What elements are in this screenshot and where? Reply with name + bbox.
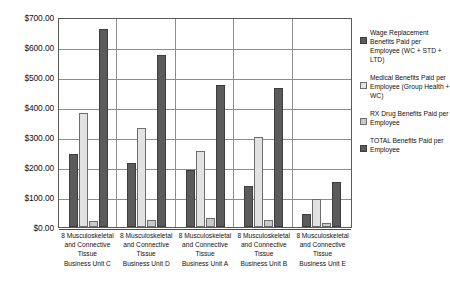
x-category-line: Business Unit B [235,259,292,268]
bar[interactable] [264,220,273,228]
y-tick-label: $300.00 [0,134,54,142]
bar[interactable] [186,170,195,227]
bar[interactable] [322,223,331,227]
x-category-line: Tissue [59,249,116,258]
y-axis: $0.00$100.00$200.00$300.00$400.00$500.00… [0,18,54,228]
y-tick-label: $200.00 [0,164,54,172]
x-category-label: 8 Musculoskeletaland ConnectiveTissueBus… [176,231,235,287]
legend-item[interactable]: Wage Replacement Benefits Paid per Emplo… [360,28,450,64]
bar-group [117,19,175,227]
bar[interactable] [302,214,311,228]
legend-item-label: TOTAL Benefits Paid per Employee [370,136,450,154]
bar[interactable] [157,55,166,227]
x-category-line: Tissue [118,249,175,258]
y-tick-label: $100.00 [0,194,54,202]
x-category-label: 8 Musculoskeletaland ConnectiveTissueBus… [117,231,176,287]
legend-item[interactable]: Medical Benefits Paid per Employee (Grou… [360,73,450,100]
bar[interactable] [244,186,253,227]
x-category-line: Tissue [294,249,351,258]
bar[interactable] [332,182,341,227]
x-category-line: and Connective [235,240,292,249]
x-category-line: Tissue [235,249,292,258]
bar-group [59,19,117,227]
chart-legend: Wage Replacement Benefits Paid per Emplo… [360,28,450,163]
bar[interactable] [137,128,146,227]
y-tick-label: $700.00 [0,14,54,22]
x-category-line: Tissue [177,249,234,258]
x-category-line: 8 Musculoskeletal [59,231,116,240]
bar[interactable] [147,220,156,228]
legend-item[interactable]: RX Drug Benefits Paid per Employee [360,109,450,127]
bar[interactable] [89,221,98,227]
legend-item[interactable]: TOTAL Benefits Paid per Employee [360,136,450,154]
bar[interactable] [216,85,225,227]
x-category-line: Business Unit C [59,259,116,268]
x-category-line: 8 Musculoskeletal [118,231,175,240]
x-category-line: 8 Musculoskeletal [177,231,234,240]
gridline [59,229,351,230]
bar-group [176,19,234,227]
bar[interactable] [206,218,215,227]
bar[interactable] [127,163,136,227]
x-category-line: Business Unit A [177,259,234,268]
bar[interactable] [254,137,263,227]
legend-swatch-icon [360,37,367,44]
x-category-line: and Connective [59,240,116,249]
x-category-line: and Connective [118,240,175,249]
y-tick-label: $600.00 [0,44,54,52]
bar[interactable] [79,113,88,227]
x-category-line: 8 Musculoskeletal [294,231,351,240]
bar-group [234,19,292,227]
bar-group [293,19,351,227]
y-tick-label: $500.00 [0,74,54,82]
x-category-label: 8 Musculoskeletaland ConnectiveTissueBus… [234,231,293,287]
bar[interactable] [99,29,108,227]
x-category-label: 8 Musculoskeletaland ConnectiveTissueBus… [58,231,117,287]
x-category-line: and Connective [294,240,351,249]
bar-chart: $0.00$100.00$200.00$300.00$400.00$500.00… [0,0,450,289]
legend-swatch-icon [360,118,367,125]
legend-swatch-icon [360,145,367,152]
x-category-label: 8 Musculoskeletaland ConnectiveTissueBus… [293,231,352,287]
y-tick-label: $400.00 [0,104,54,112]
bar-groups [59,19,351,227]
y-tick-label: $0.00 [0,224,54,232]
legend-item-label: Medical Benefits Paid per Employee (Grou… [370,73,450,100]
x-category-line: Business Unit E [294,259,351,268]
x-category-line: 8 Musculoskeletal [235,231,292,240]
x-category-line: and Connective [177,240,234,249]
legend-swatch-icon [360,82,367,89]
bar[interactable] [274,88,283,227]
legend-item-label: Wage Replacement Benefits Paid per Emplo… [370,28,450,64]
bar[interactable] [69,154,78,228]
legend-item-label: RX Drug Benefits Paid per Employee [370,109,450,127]
plot-area [58,18,352,228]
x-category-line: Business Unit D [118,259,175,268]
x-axis: 8 Musculoskeletaland ConnectiveTissueBus… [58,231,352,287]
bar[interactable] [196,151,205,227]
bar[interactable] [312,199,321,227]
